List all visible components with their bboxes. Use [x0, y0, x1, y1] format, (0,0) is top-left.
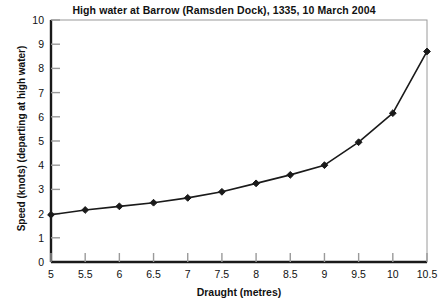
x-tick-label: 10.5	[417, 268, 438, 280]
y-tick-label: 3	[38, 183, 44, 195]
x-tick-label: 8	[253, 268, 259, 280]
y-tick-label: 10	[32, 14, 44, 26]
y-axis-ticks: 012345678910	[32, 14, 60, 268]
data-point-marker	[150, 199, 157, 206]
y-tick-label: 5	[38, 135, 44, 147]
x-tick-label: 10	[387, 268, 399, 280]
x-tick-label: 8.5	[283, 268, 298, 280]
y-tick-label: 2	[38, 208, 44, 220]
x-tick-label: 9.5	[351, 268, 366, 280]
y-tick-label: 9	[38, 38, 44, 50]
chart-figure: High water at Barrow (Ramsden Dock), 133…	[0, 0, 448, 307]
data-point-markers	[48, 48, 431, 218]
x-tick-label: 6	[116, 268, 122, 280]
y-tick-label: 1	[38, 232, 44, 244]
y-tick-label: 0	[38, 256, 44, 268]
data-point-marker	[287, 171, 294, 178]
y-tick-label: 7	[38, 87, 44, 99]
x-tick-label: 7.5	[215, 268, 230, 280]
y-tick-label: 6	[38, 111, 44, 123]
plot-area: 012345678910 55.566.577.588.599.51010.5	[0, 0, 448, 307]
data-point-marker	[116, 203, 123, 210]
data-point-marker	[82, 207, 89, 214]
x-tick-label: 9	[322, 268, 328, 280]
data-point-marker	[424, 48, 431, 55]
data-point-marker	[219, 188, 226, 195]
plot-frame	[51, 20, 427, 262]
data-point-marker	[253, 180, 260, 187]
data-point-marker	[48, 211, 55, 218]
data-series-speed	[51, 51, 427, 214]
x-axis-ticks: 55.566.577.588.599.51010.5	[48, 253, 437, 280]
x-tick-label: 5.5	[78, 268, 93, 280]
y-tick-label: 4	[38, 159, 44, 171]
x-tick-label: 6.5	[146, 268, 161, 280]
y-tick-label: 8	[38, 62, 44, 74]
x-tick-label: 7	[185, 268, 191, 280]
x-tick-label: 5	[48, 268, 54, 280]
data-point-marker	[184, 194, 191, 201]
